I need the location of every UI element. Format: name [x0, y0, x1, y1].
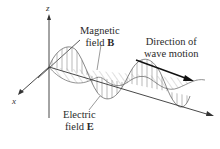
electric-leader [89, 96, 100, 110]
electric-label-line1: Electric [63, 109, 96, 121]
em-wave-diagram [0, 0, 220, 149]
magnetic-label-line1: Magnetic [80, 25, 120, 37]
magnetic-field-label: Magnetic field B [80, 25, 120, 49]
magnetic-field-wave [49, 67, 205, 89]
x-axis [18, 67, 49, 95]
direction-label-line1: Direction of [144, 36, 199, 48]
magnetic-symbol: B [107, 37, 114, 48]
electric-symbol: E [87, 121, 94, 132]
magnetic-label-prefix: field [85, 37, 107, 48]
direction-label-line2: wave motion [144, 48, 199, 60]
electric-label-prefix: field [65, 121, 87, 132]
electric-field-label: Electric field E [63, 109, 96, 133]
direction-label: Direction of wave motion [144, 36, 199, 60]
x-axis-label: x [12, 96, 16, 106]
z-axis-label: z [46, 3, 50, 13]
